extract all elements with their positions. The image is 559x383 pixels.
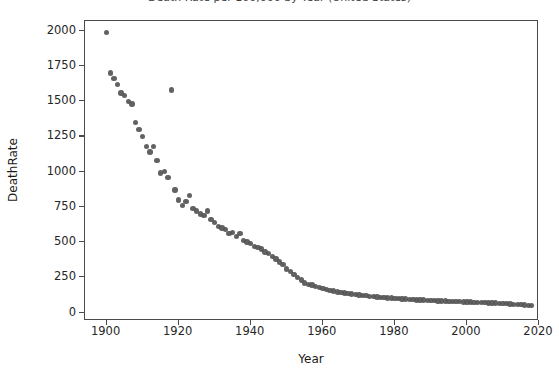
chart-title-clipped-region: Death Rate per 100,000 by Year (United S… [0,0,559,7]
x-tick-mark [466,320,467,325]
scatter-point [162,169,167,174]
x-tick-mark [538,320,539,325]
y-tick-mark [79,312,84,313]
scatter-point [529,303,534,308]
y-tick-label: 500 [54,234,76,248]
scatter-point [133,120,138,125]
scatter-point [237,231,242,236]
y-tick-mark [79,135,84,136]
y-tick-mark [79,206,84,207]
y-tick-label: 1500 [47,93,76,107]
y-tick-label: 2000 [47,23,76,37]
scatter-point [151,144,156,149]
scatter-point [165,175,170,180]
scatter-series-deathrate [85,21,537,319]
x-tick-label: 2000 [451,324,480,338]
plot-area [84,20,538,320]
matplotlib-figure: Death Rate per 100,000 by Year (United S… [0,0,559,383]
y-tick-mark [79,30,84,31]
x-tick-mark [250,320,251,325]
x-tick-label: 1980 [379,324,408,338]
y-tick-label: 1000 [47,164,76,178]
y-tick-mark [79,171,84,172]
scatter-point [115,82,120,87]
scatter-point [129,101,134,106]
x-tick-label: 1920 [163,324,192,338]
scatter-point [154,158,159,163]
scatter-point [187,193,192,198]
scatter-point [108,70,113,75]
x-tick-label: 1940 [235,324,264,338]
scatter-point [122,93,127,98]
x-tick-mark [322,320,323,325]
y-tick-mark [79,241,84,242]
y-tick-mark [79,65,84,66]
scatter-point [136,127,141,132]
x-tick-label: 1960 [307,324,336,338]
y-tick-mark [79,276,84,277]
scatter-point [172,187,177,192]
scatter-point [104,30,109,35]
scatter-point [183,199,188,204]
x-tick-label: 1900 [91,324,120,338]
scatter-point [147,149,152,154]
y-tick-label: 750 [54,199,76,213]
scatter-point [205,208,210,213]
y-tick-label: 1750 [47,58,76,72]
y-tick-mark [79,100,84,101]
scatter-point [140,134,145,139]
scatter-point [144,144,149,149]
x-tick-mark [106,320,107,325]
chart-title: Death Rate per 100,000 by Year (United S… [148,0,411,4]
x-tick-mark [178,320,179,325]
y-tick-label: 0 [69,305,76,319]
scatter-point [111,76,116,81]
scatter-point [176,197,181,202]
x-axis-title: Year [298,352,323,366]
y-tick-label: 250 [54,269,76,283]
scatter-point [169,87,174,92]
x-tick-mark [394,320,395,325]
x-tick-label: 2020 [523,324,552,338]
y-tick-label: 1250 [47,128,76,142]
y-axis-title: DeathRate [6,138,20,202]
